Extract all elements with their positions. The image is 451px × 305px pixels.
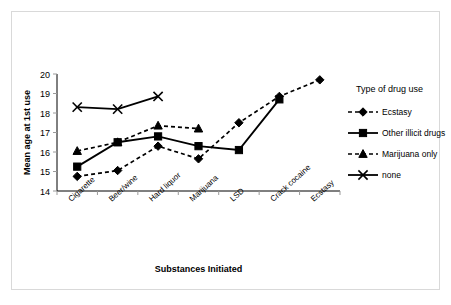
series-marker-1 <box>235 146 242 153</box>
x-tick-label-3: Marijuana <box>188 173 221 204</box>
y-tick-label-17: 17 <box>40 128 50 138</box>
y-tick-label-19: 19 <box>40 89 50 99</box>
series-line-2 <box>77 126 198 151</box>
y-tick-label-18: 18 <box>40 109 50 119</box>
legend-label-0[interactable]: Ecstasy <box>382 107 413 117</box>
legend-title: Type of drug use <box>356 84 423 94</box>
x-axis-title: Substances Initiated <box>155 264 243 274</box>
series-marker-1 <box>74 163 81 170</box>
y-tick-label-20: 20 <box>40 70 50 80</box>
chart-figure: 14151617181920CigaretteBeer/wineHard liq… <box>0 0 451 305</box>
series-marker-1 <box>276 96 283 103</box>
y-axis-title: Mean age at 1st use <box>22 90 32 175</box>
x-tick-label-1: Beer/wine <box>107 173 140 204</box>
y-tick-label-16: 16 <box>40 148 50 158</box>
series-marker-0 <box>316 76 324 84</box>
y-tick-label-14: 14 <box>40 187 50 197</box>
x-tick-label-5: Crack cocaine <box>269 163 313 204</box>
legend-label-3[interactable]: none <box>382 170 401 180</box>
line-chart: 14151617181920CigaretteBeer/wineHard liq… <box>0 0 451 305</box>
y-tick-label-15: 15 <box>40 167 50 177</box>
legend-marker-square <box>359 129 366 136</box>
series-marker-0 <box>154 142 162 150</box>
x-tick-label-4: LSD <box>228 186 246 203</box>
legend-label-1[interactable]: Other illicit drugs <box>382 128 445 138</box>
x-tick-label-2: Hard liquor <box>147 170 182 203</box>
series-marker-0 <box>113 166 121 174</box>
series-line-3 <box>77 96 158 109</box>
legend-marker-diamond <box>359 108 367 116</box>
legend-label-2[interactable]: Marijuana only <box>382 149 438 159</box>
series-marker-1 <box>154 133 161 140</box>
series-marker-0 <box>73 172 81 180</box>
x-tick-label-0: Cigarette <box>67 175 98 204</box>
series-marker-0 <box>235 119 243 127</box>
series-marker-1 <box>195 143 202 150</box>
